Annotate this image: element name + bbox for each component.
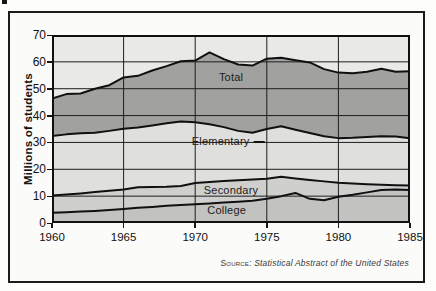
y-tick-mark-30 xyxy=(47,142,52,144)
y-tick-label-40: 40 xyxy=(12,109,46,123)
y-tick-mark-50 xyxy=(47,88,52,90)
x-tick-mark-1975 xyxy=(266,223,268,228)
x-tick-mark-1970 xyxy=(194,223,196,228)
x-tick-label-1960: 1960 xyxy=(34,231,70,243)
y-tick-mark-10 xyxy=(47,196,52,198)
source-citation: Statistical Abstract of the United State… xyxy=(254,258,409,268)
y-axis-title: Millions of students xyxy=(22,59,34,199)
y-tick-label-20: 20 xyxy=(12,162,46,176)
x-tick-label-1980: 1980 xyxy=(320,231,356,243)
x-tick-label-1965: 1965 xyxy=(106,231,142,243)
figure-frame: Millions of students TotalElementarySeco… xyxy=(8,11,425,283)
series-label-text: Total xyxy=(219,71,243,83)
source-note: Source: Statistical Abstract of the Unit… xyxy=(221,258,410,268)
source-label: Source: xyxy=(221,258,252,268)
series-label-college: College xyxy=(207,204,246,216)
series-label-text: College xyxy=(207,204,246,216)
x-tick-mark-1960 xyxy=(51,223,53,228)
x-tick-mark-1985 xyxy=(409,223,411,228)
y-tick-label-10: 10 xyxy=(12,189,46,203)
series-label-elementary: Elementary xyxy=(192,135,265,147)
y-tick-mark-70 xyxy=(47,35,52,37)
series-label-text: Secondary xyxy=(204,184,258,196)
x-tick-label-1970: 1970 xyxy=(177,231,213,243)
y-tick-label-60: 60 xyxy=(12,55,46,69)
y-tick-mark-60 xyxy=(47,61,52,63)
series-label-total: Total xyxy=(219,71,243,83)
x-tick-mark-1965 xyxy=(123,223,125,228)
series-label-secondary: Secondary xyxy=(204,184,258,196)
y-tick-mark-40 xyxy=(47,115,52,117)
x-tick-label-1985: 1985 xyxy=(392,231,428,243)
x-tick-label-1975: 1975 xyxy=(249,231,285,243)
y-tick-label-30: 30 xyxy=(12,135,46,149)
chart-plot-area: TotalElementarySecondaryCollege xyxy=(52,35,410,223)
x-tick-mark-1980 xyxy=(338,223,340,228)
figure-page: Millions of students TotalElementarySeco… xyxy=(0,0,436,291)
y-tick-label-50: 50 xyxy=(12,82,46,96)
y-tick-mark-20 xyxy=(47,169,52,171)
y-tick-label-0: 0 xyxy=(12,216,46,230)
y-tick-label-70: 70 xyxy=(12,28,46,42)
series-label-text: Elementary xyxy=(192,135,250,147)
label-leader-dash xyxy=(253,141,264,143)
page-edge-mark xyxy=(2,0,7,4)
